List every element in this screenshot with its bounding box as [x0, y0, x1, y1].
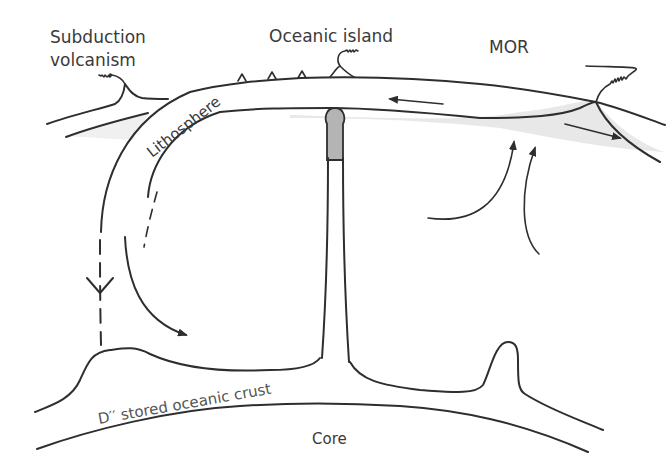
return-flow-arrow	[125, 237, 186, 335]
oceanic-island-plume	[338, 50, 358, 66]
slab-descent-dashed-inner	[144, 192, 157, 247]
subduction-volcano-plume	[99, 74, 125, 84]
mor-plume	[586, 66, 636, 102]
label-d-double-prime: D′′ stored oceanic crust	[97, 380, 273, 428]
plume-head	[326, 108, 345, 160]
mor-upwelling-arrow-right	[524, 148, 539, 254]
label-oceanic-island: Oceanic island	[269, 26, 393, 46]
label-core: Core	[312, 430, 347, 448]
label-subduction: Subduction	[50, 27, 146, 47]
plume-stem	[322, 158, 328, 358]
plate-motion-arrow-left	[390, 99, 443, 104]
label-volcanism: volcanism	[50, 50, 136, 70]
label-mor: MOR	[489, 37, 529, 57]
label-lithosphere: Lithosphere	[143, 93, 224, 162]
plume-stem-right	[343, 158, 349, 362]
mor-upwelling-arrow-left	[428, 142, 514, 219]
lithosphere-bottom-surface	[148, 102, 596, 197]
lithosphere-top-surface	[101, 77, 665, 232]
mantle-convection-diagram: Subduction volcanism Oceanic island MOR …	[0, 0, 670, 472]
